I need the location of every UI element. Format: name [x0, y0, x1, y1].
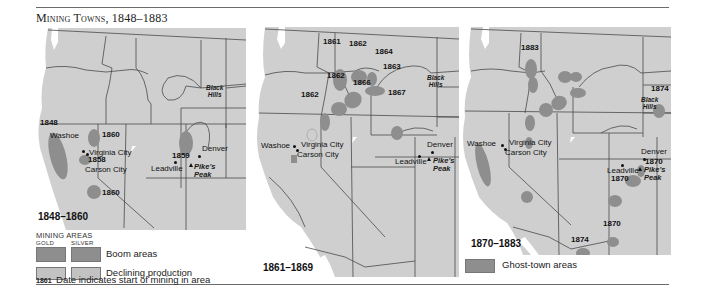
place-black-hills: BlackHills — [641, 97, 658, 111]
year-label: 1862 — [327, 72, 345, 80]
page-title: Mining Towns, 1848–1883 — [36, 11, 168, 26]
year-label: 1858 — [88, 156, 106, 164]
legend-ghost-label: Ghost-town areas — [502, 259, 577, 270]
year-label: 1864 — [375, 48, 393, 56]
town-marker — [198, 155, 201, 158]
panel-range-label: 1848–1860 — [38, 211, 88, 222]
legend-date-text: Date indicates start of mining in area — [56, 274, 210, 285]
swatch-gold-boom — [36, 247, 66, 262]
year-label: 1848 — [40, 119, 58, 127]
place-carson-city: Carson City — [505, 149, 547, 157]
place-denver: Denver — [202, 145, 228, 153]
legend-date-sample: 1861 — [36, 277, 52, 284]
place-virginia-city: Virginia City — [509, 139, 552, 147]
year-label: 1860 — [102, 189, 120, 197]
map-west-us-1861 — [255, 27, 459, 277]
legend-header: MINING AREAS — [36, 231, 93, 240]
top-rule — [36, 7, 669, 8]
year-label: 1861 — [323, 38, 341, 46]
swatch-ghost-town — [465, 259, 495, 273]
map-panel-1861-1869: 1861 1862 1864 1863 1862 1866 1862 1867 … — [255, 27, 459, 277]
place-washoe: Washoe — [50, 132, 79, 140]
map-panel-1848-1860: 1848 Washoe 1860 Virginia City 1858 Cars… — [36, 28, 246, 230]
place-black-hills: BlackHills — [206, 85, 223, 99]
map-panel-1870-1883: 1883 1874 BlackHills Washoe Virginia Cit… — [461, 27, 671, 255]
place-washoe: Washoe — [261, 142, 290, 150]
place-pikes-peak: Pike'sPeak — [194, 163, 215, 179]
panel-range-label: 1861–1869 — [263, 262, 313, 273]
place-denver: Denver — [427, 141, 453, 149]
legend-silver-label: SILVER — [71, 240, 94, 246]
year-label: 1860 — [102, 131, 120, 139]
town-marker — [293, 145, 296, 148]
town-marker — [82, 150, 85, 153]
place-leadville: Leadville — [151, 165, 183, 173]
year-label: 1866 — [353, 79, 371, 87]
year-label: 1862 — [349, 40, 367, 48]
town-marker — [501, 144, 504, 147]
legend-date-note: 1861 Date indicates start of mining in a… — [36, 269, 210, 287]
place-carson-city: Carson City — [297, 151, 339, 159]
year-label: 1862 — [301, 91, 319, 99]
map-west-us-1848 — [36, 28, 246, 230]
year-label: 1859 — [172, 152, 190, 160]
year-label: 1870 — [611, 175, 629, 183]
legend-gold-label: GOLD — [36, 240, 54, 246]
swatch-silver-boom — [71, 247, 101, 262]
place-pikes-peak: Pike'sPeak — [644, 166, 665, 182]
place-virginia-city: Virginia City — [301, 141, 344, 149]
place-washoe: Washoe — [467, 140, 496, 148]
place-leadville: Leadville — [395, 158, 427, 166]
place-black-hills: BlackHills — [427, 75, 444, 89]
place-pikes-peak: Pike'sPeak — [433, 157, 454, 173]
peak-marker — [638, 167, 642, 171]
year-label: 1863 — [383, 63, 401, 71]
year-label: 1874 — [651, 85, 669, 93]
panel-range-label: 1870–1883 — [471, 238, 521, 249]
year-label: 1883 — [521, 44, 539, 52]
year-label: 1867 — [388, 89, 406, 97]
peak-marker — [189, 163, 193, 167]
year-label: 1870 — [603, 220, 621, 228]
legend-boom-label: Boom areas — [106, 248, 157, 259]
place-denver: Denver — [641, 148, 667, 156]
year-label: 1874 — [571, 236, 589, 244]
town-marker — [431, 151, 434, 154]
peak-marker — [427, 157, 431, 161]
place-carson-city: Carson City — [85, 166, 127, 174]
